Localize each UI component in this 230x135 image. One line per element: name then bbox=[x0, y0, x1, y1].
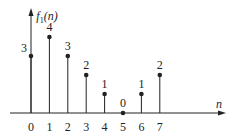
value-label: 2 bbox=[157, 59, 163, 71]
stem-marker bbox=[66, 54, 71, 59]
stem-marker bbox=[121, 111, 126, 116]
value-label: 3 bbox=[21, 42, 27, 54]
stem-marker bbox=[47, 35, 52, 40]
value-label: 1 bbox=[102, 78, 108, 90]
stem-marker bbox=[139, 92, 144, 97]
x-tick-label: 0 bbox=[28, 121, 34, 133]
x-tick-label: 2 bbox=[65, 121, 71, 133]
value-label: 0 bbox=[120, 97, 126, 109]
x-tick-label: 5 bbox=[120, 121, 126, 133]
x-axis-arrow-icon bbox=[218, 111, 226, 116]
x-tick-label: 7 bbox=[157, 121, 163, 133]
stem-marker bbox=[102, 92, 107, 97]
plot-area bbox=[0, 0, 230, 135]
value-label: 2 bbox=[83, 59, 89, 71]
x-tick-label: 1 bbox=[46, 121, 52, 133]
x-axis-label: n bbox=[216, 98, 222, 110]
value-label: 3 bbox=[65, 40, 71, 52]
y-axis-label: f1(n) bbox=[36, 10, 57, 25]
value-label: 1 bbox=[138, 78, 144, 90]
stem-marker bbox=[84, 73, 89, 78]
stem-plot: 3041322314051627nf1(n) bbox=[0, 0, 230, 135]
x-tick-label: 3 bbox=[83, 121, 89, 133]
x-tick-label: 6 bbox=[138, 121, 144, 133]
stem-marker bbox=[158, 73, 163, 78]
x-tick-label: 4 bbox=[102, 121, 108, 133]
y-axis-arrow-icon bbox=[29, 8, 34, 16]
stem-marker bbox=[29, 54, 34, 59]
